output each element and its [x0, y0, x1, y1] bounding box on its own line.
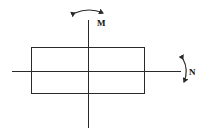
- diagram-canvas: M N: [0, 0, 204, 136]
- label-m: M: [97, 18, 106, 28]
- label-n: N: [189, 67, 196, 77]
- moment-arrow-right-icon: [183, 59, 186, 82]
- moment-arrow-top-icon: [75, 10, 103, 13]
